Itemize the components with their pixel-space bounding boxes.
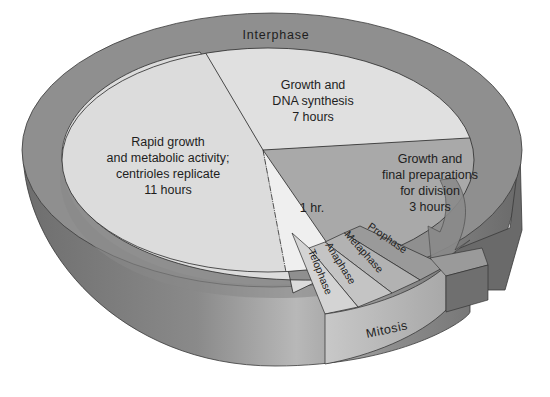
- svg-text:11 hours: 11 hours: [144, 183, 192, 197]
- svg-text:3 hours: 3 hours: [409, 200, 451, 214]
- svg-text:7 hours: 7 hours: [292, 110, 334, 124]
- svg-text:Growth and: Growth and: [398, 152, 463, 166]
- svg-text:for division: for division: [400, 184, 460, 198]
- svg-text:DNA synthesis: DNA synthesis: [272, 94, 353, 108]
- svg-text:and metabolic activity;: and metabolic activity;: [107, 151, 230, 165]
- svg-text:Growth and: Growth and: [281, 78, 346, 92]
- svg-text:Rapid growth: Rapid growth: [131, 135, 205, 149]
- label-m: 1 hr.: [300, 201, 324, 215]
- cell-cycle-diagram: Interphase Growth and DNA synthesis 7 ho…: [0, 0, 550, 397]
- svg-text:centrioles replicate: centrioles replicate: [116, 167, 220, 181]
- interphase-label: Interphase: [242, 28, 309, 42]
- svg-text:final preparations: final preparations: [382, 168, 478, 182]
